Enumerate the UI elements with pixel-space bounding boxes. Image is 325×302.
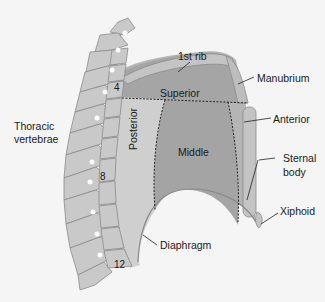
middle-region bbox=[154, 100, 238, 225]
sternal-body bbox=[243, 107, 256, 217]
label-anterior: Anterior bbox=[273, 113, 310, 125]
label-diaphragm: Diaphragm bbox=[160, 239, 211, 251]
xiphoid-process bbox=[256, 212, 263, 228]
label-posterior: Posterior bbox=[127, 108, 139, 150]
label-thoracic-vertebrae-line2: vertebrae bbox=[14, 133, 58, 145]
label-manubrium: Manubrium bbox=[257, 72, 310, 84]
label-middle: Middle bbox=[178, 146, 209, 158]
vertebra-number-8: 8 bbox=[100, 171, 106, 182]
label-first-rib: 1st rib bbox=[178, 50, 207, 62]
vertebra-number-4: 4 bbox=[114, 82, 120, 93]
label-sternal-body-line2: body bbox=[283, 166, 306, 178]
vertebra-number-12: 12 bbox=[114, 259, 125, 270]
label-thoracic-vertebrae-line1: Thoracic bbox=[14, 120, 54, 132]
mediastinum-diagram bbox=[0, 0, 325, 302]
label-sternal-body-line1: Sternal bbox=[283, 152, 316, 164]
label-xiphoid: Xiphoid bbox=[280, 205, 315, 217]
label-superior: Superior bbox=[160, 87, 200, 99]
